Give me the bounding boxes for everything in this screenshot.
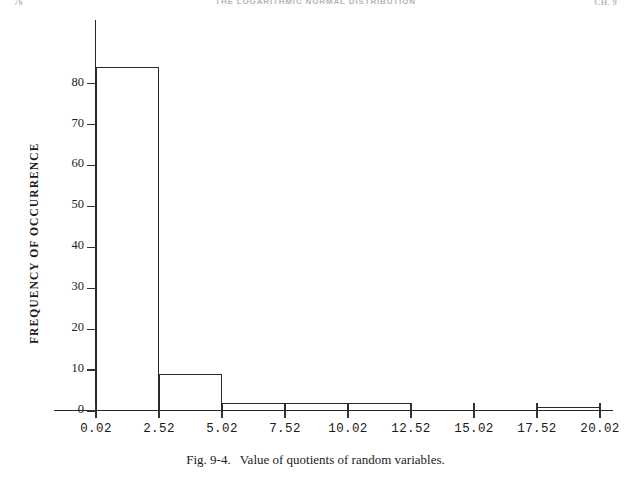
y-axis-tick-label: 0 xyxy=(54,402,84,417)
histogram-bar xyxy=(222,403,285,411)
x-axis-tick-label: 12.52 xyxy=(376,422,446,436)
y-axis-tick-label: 20 xyxy=(54,320,84,335)
histogram-bar xyxy=(285,403,348,411)
figure-caption-text: Value of quotients of random variables. xyxy=(240,452,445,467)
x-axis-tick-label: 7.52 xyxy=(250,422,320,436)
figure-caption: Fig. 9-4.Value of quotients of random va… xyxy=(0,452,631,468)
x-axis-tick-label: 0.02 xyxy=(61,422,131,436)
x-axis-tick-label: 17.52 xyxy=(502,422,572,436)
y-axis-tick-label: 30 xyxy=(54,279,84,294)
y-axis-tick xyxy=(87,206,96,207)
y-axis-tick xyxy=(87,329,96,330)
y-axis-title: FREQUENCY OF OCCURRENCE xyxy=(28,144,40,344)
histogram-bar xyxy=(96,67,159,411)
y-axis-tick-label: 50 xyxy=(54,197,84,212)
y-axis-tick-label: 60 xyxy=(54,156,84,171)
figure-caption-number: Fig. 9-4. xyxy=(186,452,230,467)
x-axis-tick-label: 15.02 xyxy=(439,422,509,436)
y-axis-tick-label: 40 xyxy=(54,238,84,253)
x-axis-tick-label: 10.02 xyxy=(313,422,383,436)
y-axis-tick xyxy=(87,247,96,248)
y-axis-tick-label: 70 xyxy=(54,116,84,131)
y-axis-tick xyxy=(87,369,96,370)
x-axis-tick-label: 2.52 xyxy=(124,422,194,436)
x-axis-tick xyxy=(473,403,474,418)
histogram-bar xyxy=(159,374,222,411)
y-axis-tick-label: 80 xyxy=(54,75,84,90)
x-axis-tick-label: 20.02 xyxy=(565,422,631,436)
y-axis-tick xyxy=(87,83,96,84)
histogram-bar xyxy=(348,403,411,411)
y-axis-tick-label: 10 xyxy=(54,361,84,376)
y-axis-tick xyxy=(87,288,96,289)
x-axis-tick-label: 5.02 xyxy=(187,422,257,436)
y-axis-tick xyxy=(87,165,96,166)
figure-9-4: 01020304050607080 0.022.525.027.5210.021… xyxy=(0,0,631,483)
histogram-plot: 01020304050607080 0.022.525.027.5210.021… xyxy=(0,0,631,483)
y-axis-tick xyxy=(87,124,96,125)
histogram-bar xyxy=(537,407,600,411)
